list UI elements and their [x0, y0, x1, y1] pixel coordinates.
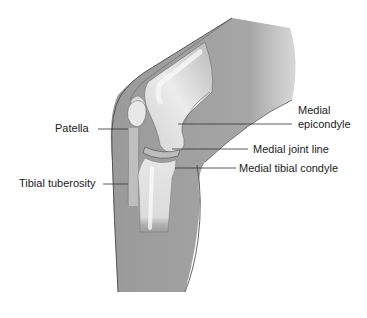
label-tibial-tuberosity: Tibial tuberosity — [19, 177, 96, 190]
label-patella: Patella — [55, 122, 89, 135]
label-medial-epicondyle-line1: Medial — [298, 104, 330, 117]
label-medial-joint-line: Medial joint line — [253, 143, 329, 156]
label-medial-tibial-condyle: Medial tibial condyle — [239, 162, 338, 175]
knee-diagram — [0, 0, 367, 318]
label-medial-epicondyle-line2: epicondyle — [298, 118, 351, 131]
